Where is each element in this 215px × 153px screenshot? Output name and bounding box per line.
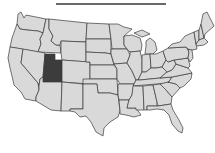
state-arizona[interactable]: Arizona bbox=[36, 77, 62, 111]
state-new-mexico[interactable]: New Mexico bbox=[61, 82, 83, 111]
state-wyoming[interactable]: Wyoming bbox=[61, 41, 86, 62]
state-nebraska[interactable]: Nebraska bbox=[86, 52, 114, 65]
state-florida[interactable]: Florida bbox=[147, 104, 183, 133]
state-kansas[interactable]: Kansas bbox=[90, 65, 117, 79]
state-utah[interactable]: Utah bbox=[43, 54, 62, 82]
state-maine[interactable]: Maine bbox=[201, 12, 214, 38]
us-map: Washington Oregon California Idaho Nevad… bbox=[0, 0, 215, 153]
state-south-dakota[interactable]: South Dakota bbox=[86, 39, 111, 54]
state-new-york[interactable]: New York bbox=[168, 32, 197, 50]
state-north-dakota[interactable]: North Dakota bbox=[86, 23, 111, 39]
state-new-jersey[interactable]: New Jersey bbox=[188, 49, 193, 62]
